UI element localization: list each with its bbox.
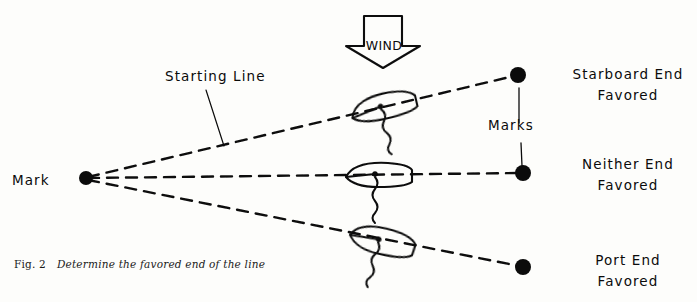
boat-port bbox=[339, 221, 417, 295]
starting-lines-group bbox=[88, 76, 519, 266]
starting-line-leader bbox=[206, 90, 224, 146]
neither-end-favored-label: Neither End Favored bbox=[566, 154, 690, 196]
marks-label: Marks bbox=[488, 115, 534, 136]
figure-caption-text: Determine the favored end of the line bbox=[57, 258, 265, 270]
wind-label: WIND bbox=[349, 38, 419, 53]
left-mark-dot bbox=[79, 171, 93, 185]
starboard-end-favored-line1: Starboard End bbox=[566, 64, 690, 85]
starting-line-label: Starting Line bbox=[165, 66, 266, 87]
figure-number: Fig. 2 bbox=[14, 258, 46, 270]
boat-neither bbox=[346, 163, 412, 223]
starting-line-neither bbox=[88, 173, 519, 178]
figure-caption: Fig. 2Determine the favored end of the l… bbox=[14, 258, 265, 270]
marks-leader-lower bbox=[521, 143, 522, 166]
starting-line-port bbox=[88, 180, 519, 266]
mark-left-label: Mark bbox=[12, 170, 50, 191]
port-end-favored-label: Port End Favored bbox=[566, 250, 690, 292]
starting-line-starboard bbox=[88, 76, 514, 177]
starboard-end-mark-dot bbox=[510, 67, 526, 83]
figure-container: WIND Mark Starting Line Marks Starboard … bbox=[0, 0, 697, 302]
boat-starboard bbox=[349, 87, 427, 161]
port-end-favored-line2: Favored bbox=[566, 271, 690, 292]
neither-end-mark-dot bbox=[515, 165, 531, 181]
port-end-favored-line1: Port End bbox=[566, 250, 690, 271]
port-end-mark-dot bbox=[515, 259, 531, 275]
neither-end-favored-line1: Neither End bbox=[566, 154, 690, 175]
starboard-end-favored-label: Starboard End Favored bbox=[566, 64, 690, 106]
neither-end-favored-line2: Favored bbox=[566, 175, 690, 196]
starboard-end-favored-line2: Favored bbox=[566, 85, 690, 106]
